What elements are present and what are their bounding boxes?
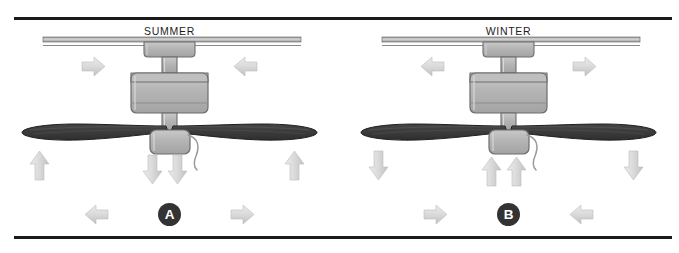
badge-summer: A: [158, 203, 181, 226]
panel-winter: WINTER: [339, 20, 678, 234]
side-right-arrow-summer: [285, 151, 304, 180]
canopy-summer: [144, 42, 195, 57]
side-left-arrow-summer: [30, 151, 49, 180]
figure-canvas: SUMMER: [0, 0, 679, 253]
ceiling-left-arrow-summer: [82, 57, 105, 76]
center-right-arrow-winter: [507, 157, 526, 186]
center-right-arrow-summer: [168, 155, 187, 184]
canopy-winter: [483, 42, 534, 57]
svg-text:B: B: [504, 207, 514, 222]
side-left-arrow-winter: [369, 151, 388, 180]
bottom-rule: [14, 236, 672, 239]
ceiling-right-arrow-winter: [573, 57, 596, 76]
fan-diagram-winter: B: [339, 20, 678, 234]
center-left-arrow-summer: [143, 155, 162, 184]
motor-housing-summer: [131, 73, 208, 113]
side-right-arrow-winter: [624, 151, 643, 180]
ceiling-left-arrow-winter: [421, 57, 444, 76]
floor-right-arrow-summer: [231, 205, 254, 224]
downrod-upper-summer: [162, 57, 177, 73]
ceiling-right-arrow-summer: [234, 57, 257, 76]
center-left-arrow-winter: [482, 157, 501, 186]
downrod-upper-winter: [501, 57, 516, 73]
panel-summer: SUMMER: [0, 20, 339, 234]
floor-left-arrow-summer: [85, 205, 108, 224]
svg-text:A: A: [165, 207, 175, 222]
fan-diagram-summer: A: [0, 20, 339, 234]
motor-housing-winter: [470, 73, 547, 113]
badge-winter: B: [497, 203, 520, 226]
floor-left-arrow-winter: [424, 205, 447, 224]
floor-right-arrow-winter: [570, 205, 593, 224]
